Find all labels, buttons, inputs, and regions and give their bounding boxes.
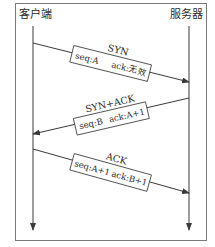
client-label: 客户端	[19, 7, 52, 21]
handshake-diagram: 客户端 服务器 SYN seq:A ack:无效 SYN+ACK seq:B a…	[0, 0, 215, 247]
message-ack: ACK seq:A+1 ack:B+1	[33, 142, 189, 193]
server-label: 服务器	[170, 8, 203, 21]
message-syn-ack: SYN+ACK seq:B ack:A+1	[33, 90, 189, 135]
message-syn: SYN seq:A ack:无效	[33, 34, 189, 82]
